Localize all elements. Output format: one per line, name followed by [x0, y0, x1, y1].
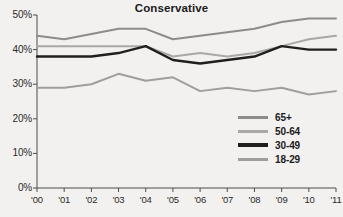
legend-swatch-icon — [238, 143, 268, 147]
series-line-18-29 — [37, 74, 336, 95]
legend-label: 50-64 — [275, 126, 300, 137]
legend-swatch-icon — [238, 158, 268, 161]
x-axis-tick-label: '04 — [133, 194, 159, 205]
legend-swatch-icon — [238, 116, 268, 119]
y-axis-tick-label: 0% — [2, 182, 32, 193]
legend-item: 30-49 — [238, 138, 300, 152]
x-axis-tick-label: '03 — [106, 194, 132, 205]
legend-swatch-icon — [238, 130, 268, 133]
y-axis-tick-label: 40% — [2, 44, 32, 55]
legend-label: 30-49 — [275, 140, 300, 151]
y-axis-tick-label: 20% — [2, 113, 32, 124]
legend-label: 18-29 — [275, 154, 300, 165]
x-axis-tick-label: '06 — [187, 194, 213, 205]
legend-label: 65+ — [275, 112, 292, 123]
x-axis-tick-label: '05 — [160, 194, 186, 205]
legend-item: 65+ — [238, 110, 300, 124]
y-axis-tick-label: 30% — [2, 78, 32, 89]
series-line-65- — [37, 18, 336, 39]
series-line-50-64 — [37, 36, 336, 57]
line-chart-plot — [0, 0, 343, 217]
chart-legend: 65+50-6430-4918-29 — [238, 110, 300, 166]
x-axis-tick-label: '00 — [24, 194, 50, 205]
x-axis-tick-label: '07 — [214, 194, 240, 205]
x-axis-tick-label: '08 — [241, 194, 267, 205]
x-axis-tick-label: '01 — [51, 194, 77, 205]
y-axis-tick-label: 50% — [2, 9, 32, 20]
x-axis-tick-label: '02 — [78, 194, 104, 205]
y-axis-tick-label: 10% — [2, 147, 32, 158]
chart-container: Conservative 0%10%20%30%40%50% '00'01'02… — [0, 0, 343, 217]
x-axis-tick-label: '11 — [323, 194, 343, 205]
legend-item: 50-64 — [238, 124, 300, 138]
x-axis-tick-label: '09 — [269, 194, 295, 205]
legend-item: 18-29 — [238, 152, 300, 166]
x-axis-tick-label: '10 — [296, 194, 322, 205]
